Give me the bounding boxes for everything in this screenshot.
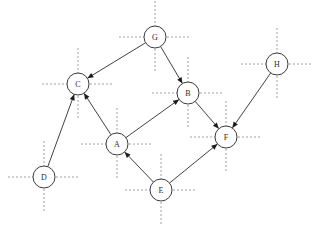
edge-h-to-f — [232, 73, 270, 128]
edge-b-to-f — [195, 101, 219, 128]
node-circle-h[interactable] — [266, 53, 288, 75]
arrow-head-h-f — [232, 122, 238, 128]
graph-diagram-canvas: ABCDEFGH — [0, 0, 318, 236]
edge-g-to-b — [161, 46, 183, 83]
node-circle-b[interactable] — [177, 82, 199, 104]
graph-node-b[interactable]: B — [177, 82, 199, 104]
edge-layer — [48, 43, 271, 183]
arrow-head-a-c — [84, 93, 89, 99]
arrow-head-g-b — [177, 77, 182, 83]
node-circle-c[interactable] — [67, 73, 89, 95]
arrow-head-a-b — [173, 99, 179, 105]
graph-node-e[interactable]: E — [150, 179, 172, 201]
node-circle-d[interactable] — [33, 166, 55, 188]
edge-d-to-c — [48, 94, 75, 166]
arrow-head-d-c — [70, 94, 75, 101]
edge-a-to-c — [84, 93, 111, 135]
graph-node-h[interactable]: H — [266, 53, 288, 75]
graph-svg: ABCDEFGH — [0, 0, 318, 236]
node-circle-e[interactable] — [150, 179, 172, 201]
node-circle-g[interactable] — [144, 26, 166, 48]
edge-e-to-a — [125, 152, 154, 182]
edge-a-to-b — [126, 99, 179, 137]
graph-node-a[interactable]: A — [106, 133, 128, 155]
node-circle-f[interactable] — [215, 126, 237, 148]
node-circle-a[interactable] — [106, 133, 128, 155]
graph-node-f[interactable]: F — [215, 126, 237, 148]
graph-node-c[interactable]: C — [67, 73, 89, 95]
node-layer: ABCDEFGH — [33, 26, 288, 201]
edge-g-to-c — [87, 43, 145, 79]
arrow-head-g-c — [87, 73, 93, 78]
edge-e-to-f — [170, 144, 218, 183]
graph-node-g[interactable]: G — [144, 26, 166, 48]
graph-node-d[interactable]: D — [33, 166, 55, 188]
